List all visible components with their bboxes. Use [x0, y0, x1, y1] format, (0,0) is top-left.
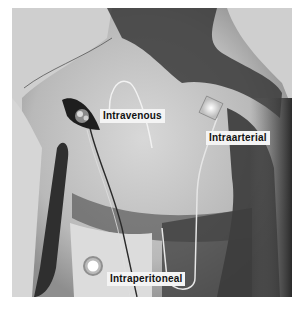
- torso-drawing: [12, 8, 292, 297]
- label-intravenous: Intravenous: [100, 109, 165, 123]
- torso-illustration: Intravenous Intraarterial Intraperitonea…: [12, 8, 292, 297]
- label-intraperitoneal: Intraperitoneal: [107, 272, 185, 286]
- label-intraarterial: Intraarterial: [206, 131, 270, 145]
